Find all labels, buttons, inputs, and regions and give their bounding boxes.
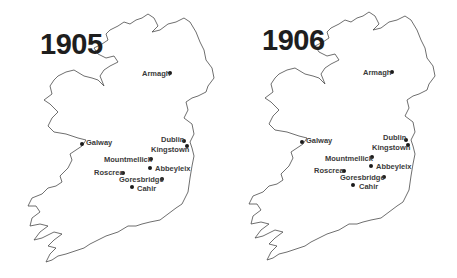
location-dot-cahir	[130, 185, 134, 189]
place-label-mountmellick: Mountmellick	[325, 155, 373, 163]
location-dot-abbeyleix	[148, 166, 152, 170]
place-label-mountmellick: Mountmellick	[104, 156, 152, 164]
place-label-galway: Galway	[306, 137, 332, 145]
location-dot-cahir	[351, 183, 355, 187]
place-label-abbeyleix: Abbeyleix	[155, 165, 190, 173]
place-label-armagh: Armagh	[363, 69, 391, 77]
place-label-dublin: Dublin	[383, 134, 406, 142]
location-dot-galway	[300, 140, 304, 144]
ireland-map-outline	[0, 0, 228, 278]
place-label-dublin: Dublin	[161, 136, 184, 144]
location-dot-galway	[80, 142, 84, 146]
year-title: 1906	[262, 24, 325, 57]
place-label-galway: Galway	[86, 139, 112, 147]
place-label-kingstown: Kingstown	[372, 144, 410, 152]
place-label-abbeyleix: Abbeyleix	[376, 163, 411, 171]
location-dot-abbeyleix	[369, 164, 373, 168]
place-label-cahir: Cahir	[137, 185, 156, 193]
place-label-armagh: Armagh	[142, 70, 170, 78]
place-label-kingstown: Kingstown	[151, 146, 189, 154]
place-label-goresbridge: Goresbridge	[119, 176, 164, 184]
year-title: 1905	[40, 28, 103, 61]
place-label-goresbridge: Goresbridge	[340, 174, 385, 182]
map-panel-1905: 1905 ArmaghGalwayDublinKingstownMountmel…	[0, 0, 228, 278]
map-panel-1906: 1906 ArmaghGalwayDublinKingstownMountmel…	[228, 0, 456, 278]
place-label-cahir: Cahir	[359, 183, 378, 191]
